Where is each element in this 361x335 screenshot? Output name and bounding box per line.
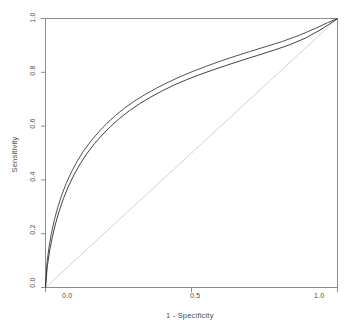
- y-tick-marks: [41, 19, 46, 288]
- y-tick-label-3: 0.6: [29, 118, 36, 128]
- y-tick-label-4: 0.8: [29, 65, 36, 75]
- y-tick-label-1: 0.2: [29, 224, 36, 234]
- x-tick-label-2: 1.0: [314, 292, 324, 299]
- x-axis-title: 1 - Specificity: [166, 311, 214, 320]
- y-tick-label-0: 0.0: [29, 277, 36, 287]
- roc-plot-figure: 0.0 0.5 1.0 0.0 0.2 0.4 0.6 0.8 1.0 1 - …: [0, 0, 361, 335]
- y-axis-title: Sensitivity: [10, 137, 19, 173]
- x-tick-label-1: 0.5: [190, 292, 200, 299]
- x-tick-label-0: 0.0: [62, 292, 72, 299]
- plot-canvas: [0, 0, 361, 335]
- y-tick-label-2: 0.4: [29, 171, 36, 181]
- chance-diagonal-line: [46, 19, 338, 288]
- y-tick-label-5: 1.0: [29, 12, 36, 22]
- chance-diagonal: [46, 19, 338, 288]
